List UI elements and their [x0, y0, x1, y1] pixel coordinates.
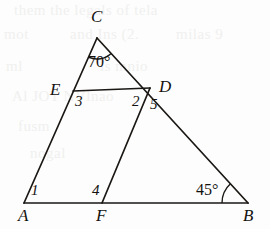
angle-number-2: 2 — [132, 94, 140, 109]
vertex-label-D: D — [159, 78, 171, 95]
angle-measure-C: 70° — [88, 54, 110, 70]
angle-number-1: 1 — [31, 183, 39, 198]
side-AC — [24, 38, 97, 203]
segment-FD — [102, 88, 150, 203]
vertex-label-E: E — [50, 81, 60, 98]
angle-number-3: 3 — [75, 94, 83, 109]
side-CB — [97, 38, 248, 203]
angle-number-5: 5 — [150, 97, 158, 112]
segments-group — [24, 38, 248, 203]
angle-number-4: 4 — [92, 183, 100, 198]
vertex-label-B: B — [243, 207, 253, 224]
geometry-figure: them the legals of telamotand Ins (2.mil… — [0, 0, 270, 229]
angle-measure-B: 45° — [196, 182, 218, 198]
vertex-label-F: F — [96, 207, 106, 224]
segment-ED — [73, 88, 150, 91]
geometry-canvas — [0, 0, 270, 229]
arc-angle-B — [222, 184, 230, 203]
vertex-label-A: A — [18, 207, 28, 224]
vertex-label-C: C — [91, 8, 102, 25]
